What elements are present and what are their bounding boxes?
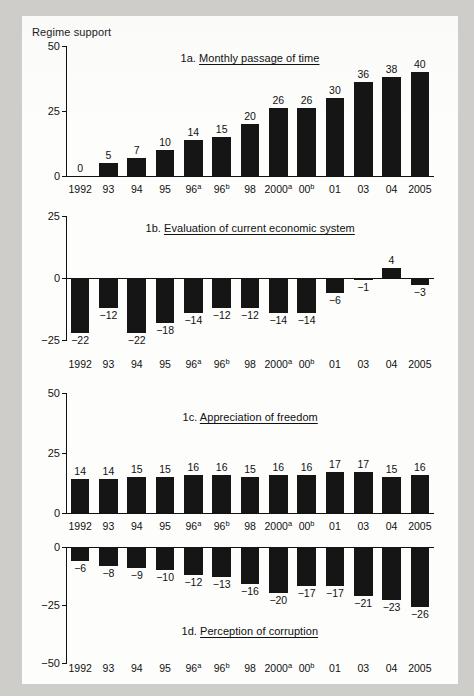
bar (354, 472, 373, 513)
bar (241, 547, 260, 584)
panel-title-text: Monthly passage of time (199, 52, 319, 64)
y-tick-label-1a-1: 25 (24, 106, 60, 117)
bar (127, 477, 146, 513)
panel-title-text: Perception of corruption (200, 625, 318, 637)
bar-value-label: −3 (398, 287, 442, 298)
bar (269, 108, 288, 176)
zero-baseline-1a (66, 176, 434, 177)
y-tick-label-1b-2: 25 (24, 211, 60, 222)
bar-value-label: 40 (398, 59, 442, 70)
bar (297, 475, 316, 513)
bar (156, 547, 175, 570)
bar (354, 82, 373, 176)
bar-value-label: −22 (115, 335, 159, 346)
bar-value-label: 20 (228, 111, 272, 122)
y-tick-label-1c-0: 0 (24, 508, 60, 519)
bar (382, 547, 401, 600)
bar (326, 98, 345, 176)
x-tick-label: 2005 (396, 663, 444, 674)
bar-value-label: 4 (370, 255, 414, 266)
y-tick-label-1c-1: 25 (24, 448, 60, 459)
chart-panel-1b: −25025−221992−1293−2294−1895−1496a−1296b… (22, 204, 458, 379)
plot-area-1c: 025501419921493159415951696a1696b1598162… (22, 381, 458, 541)
x-tick-label: 2005 (396, 521, 444, 532)
bar (382, 77, 401, 176)
bar (99, 479, 118, 513)
x-tick-label: 2005 (396, 184, 444, 195)
y-tick-1c-0 (62, 513, 67, 514)
panel-title-number: 1c. (183, 411, 200, 423)
bar-value-label: −1 (341, 282, 385, 293)
bar (241, 124, 260, 176)
y-tick-1d-2 (62, 547, 67, 548)
y-tick-label-1c-2: 50 (24, 388, 60, 399)
bar (184, 547, 203, 575)
x-tick-label: 2005 (396, 359, 444, 370)
bar (297, 547, 316, 586)
y-tick-1a-0 (62, 176, 67, 177)
y-tick-1b-1 (62, 278, 67, 279)
chart-panel-1a: 025500199259379410951496a1596b2098262000… (22, 34, 458, 204)
y-tick-label-1a-2: 50 (24, 41, 60, 52)
bar (241, 477, 260, 513)
y-tick-label-1d-1: −25 (24, 600, 60, 611)
y-tick-1c-1 (62, 453, 67, 454)
y-tick-1a-2 (62, 46, 67, 47)
plot-area-1a: 025500199259379410951496a1596b2098262000… (22, 34, 458, 204)
y-tick-1d-1 (62, 605, 67, 606)
bar (269, 475, 288, 513)
panel-title-number: 1b. (146, 222, 165, 234)
y-tick-1b-2 (62, 216, 67, 217)
y-tick-label-1b-1: 0 (24, 273, 60, 284)
y-tick-1c-2 (62, 393, 67, 394)
panel-title-1a: 1a. Monthly passage of time (181, 52, 320, 64)
bar (354, 547, 373, 596)
bar-value-label: −18 (143, 325, 187, 336)
bar (241, 278, 260, 308)
bar (156, 150, 175, 176)
figure-page: Regime support 025500199259379410951496a… (0, 0, 474, 696)
bar (212, 547, 231, 577)
bar (127, 158, 146, 176)
bar (354, 278, 373, 280)
bar-value-label: 26 (285, 95, 329, 106)
plot-area-1b: −25025−221992−1293−2294−1895−1496a−1296b… (22, 204, 458, 379)
y-tick-label-1d-2: 0 (24, 542, 60, 553)
bar (326, 547, 345, 586)
chart-panel-1d: −50−250−61992−893−994−1095−1296a−1396b−1… (22, 539, 458, 684)
bar (184, 278, 203, 313)
bar-value-label: −6 (313, 295, 357, 306)
bar (269, 278, 288, 313)
bar (184, 140, 203, 176)
bar (99, 278, 118, 308)
bar (326, 472, 345, 513)
panel-title-number: 1d. (182, 625, 201, 637)
bar (411, 475, 430, 513)
bar (382, 268, 401, 278)
bar (127, 547, 146, 568)
panel-title-1b: 1b. Evaluation of current economic syste… (146, 222, 355, 234)
bar (411, 72, 430, 176)
bar-value-label: 16 (398, 462, 442, 473)
panel-title-1c: 1c. Appreciation of freedom (183, 411, 318, 423)
y-tick-label-1d-0: −50 (24, 658, 60, 669)
bar-value-label: 15 (200, 124, 244, 135)
panel-title-text: Evaluation of current economic system (164, 222, 355, 234)
y-tick-label-1b-0: −25 (24, 335, 60, 346)
bar-value-label: −26 (398, 609, 442, 620)
bar-value-label: −14 (285, 315, 329, 326)
panel-title-text: Appreciation of freedom (200, 411, 318, 423)
bar-value-label: 30 (313, 85, 357, 96)
bar (411, 278, 430, 285)
bar-value-label: 10 (143, 137, 187, 148)
panel-title-number: 1a. (181, 52, 200, 64)
bar (269, 547, 288, 593)
y-tick-1a-1 (62, 111, 67, 112)
bar (382, 477, 401, 513)
plot-area-1d: −50−250−61992−893−994−1095−1296a−1396b−1… (22, 539, 458, 684)
bar (212, 278, 231, 308)
bar (297, 108, 316, 176)
bar (184, 475, 203, 513)
bar (212, 137, 231, 176)
bar (71, 278, 90, 333)
